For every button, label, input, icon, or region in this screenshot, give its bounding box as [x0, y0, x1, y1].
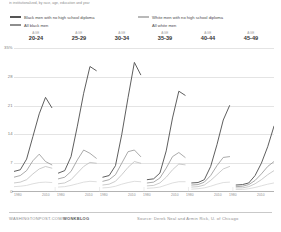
- chart-deck: in institutionalized, by race, age, educ…: [9, 1, 271, 6]
- x-tick-label: 2010: [128, 193, 136, 197]
- x-tick-label: 1980: [143, 193, 151, 197]
- legend-swatch-icon: [10, 24, 21, 25]
- y-tick-label: 21: [8, 104, 13, 108]
- series-line: [58, 67, 96, 174]
- panel-range: 45-49: [229, 35, 273, 42]
- legend-swatch-icon: [138, 16, 149, 17]
- footer-source: Source: Derek Neal and Armin Rick, U. of…: [137, 216, 238, 222]
- legend-column-white: White men with no high school diploma Al…: [138, 13, 223, 29]
- x-tick-label: 2010: [171, 193, 179, 197]
- panel-header-20-24: AGE 20-24: [14, 31, 58, 42]
- series-lines: [14, 48, 274, 192]
- series-line: [147, 182, 185, 189]
- series-line: [236, 171, 274, 188]
- legend-item: Black men with no high school diploma: [10, 13, 95, 21]
- x-tick-label: 1980: [186, 193, 194, 197]
- chart-legend: Black men with no high school diploma Al…: [10, 13, 272, 29]
- y-tick-label: 7: [10, 161, 12, 165]
- series-line: [147, 91, 185, 179]
- legend-label: All black men: [24, 23, 48, 28]
- legend-label: All white men: [138, 23, 176, 28]
- panel-range: 30-34: [100, 35, 144, 42]
- x-tick-label: 2010: [257, 193, 265, 197]
- panel-header-45-49: AGE 45-49: [229, 31, 273, 42]
- y-tick-label: 35%: [4, 46, 12, 50]
- footer-brand-plain: WASHINGTONPOST.COM/: [9, 216, 63, 221]
- panel-range: 25-29: [57, 35, 101, 42]
- x-axis: 1980 2010 1980 2010 1980 2010 1980 2010 …: [14, 193, 276, 201]
- y-tick-label: 0: [10, 190, 12, 194]
- x-tick-label: 2010: [85, 193, 93, 197]
- series-line: [103, 62, 141, 177]
- x-tick-label: 2010: [42, 193, 50, 197]
- x-tick-label: 1980: [57, 193, 65, 197]
- panel-header-30-34: AGE 30-34: [100, 31, 144, 42]
- panel-header-35-39: AGE 35-39: [143, 31, 187, 42]
- x-tick-label: 1980: [100, 193, 108, 197]
- series-line: [14, 182, 52, 187]
- legend-item: White men with no high school diploma: [138, 13, 223, 21]
- legend-label: White men with no high school diploma: [152, 15, 223, 20]
- legend-swatch-icon: [10, 16, 21, 17]
- legend-label: Black men with no high school diploma: [24, 15, 95, 20]
- legend-column-black: Black men with no high school diploma Al…: [10, 13, 95, 29]
- panel-range: 40-44: [186, 35, 230, 42]
- y-tick-label: 28: [8, 75, 13, 79]
- chart-figure: in institutionalized, by race, age, educ…: [0, 0, 281, 232]
- legend-item: All white men: [138, 21, 223, 29]
- panel-range: 20-24: [14, 35, 58, 42]
- series-line: [236, 126, 274, 185]
- plot-area: 35% 28 21 14 7 0: [14, 48, 274, 192]
- x-tick-label: 1980: [229, 193, 237, 197]
- footer-brand-bold: WONKBLOG: [63, 216, 89, 221]
- footer-divider: [9, 212, 272, 213]
- series-line: [192, 166, 230, 187]
- series-line: [58, 162, 96, 183]
- legend-item: All black men: [10, 21, 95, 29]
- panel-header-40-44: AGE 40-44: [186, 31, 230, 42]
- series-line: [192, 106, 230, 183]
- series-line: [58, 150, 96, 179]
- y-tick-label: 14: [8, 132, 13, 136]
- panel-range: 35-39: [143, 35, 187, 42]
- footer-brand[interactable]: WASHINGTONPOST.COM/WONKBLOG: [9, 216, 89, 222]
- series-line: [14, 166, 52, 182]
- x-tick-label: 2010: [214, 193, 222, 197]
- series-line: [103, 150, 141, 181]
- x-tick-label: 1980: [14, 193, 22, 197]
- series-line: [58, 181, 96, 187]
- panel-headers: AGE 20-24 AGE 25-29 AGE 30-34 AGE 35-39 …: [14, 31, 278, 45]
- series-line: [192, 182, 230, 189]
- panel-header-25-29: AGE 25-29: [57, 31, 101, 42]
- series-line: [147, 153, 185, 183]
